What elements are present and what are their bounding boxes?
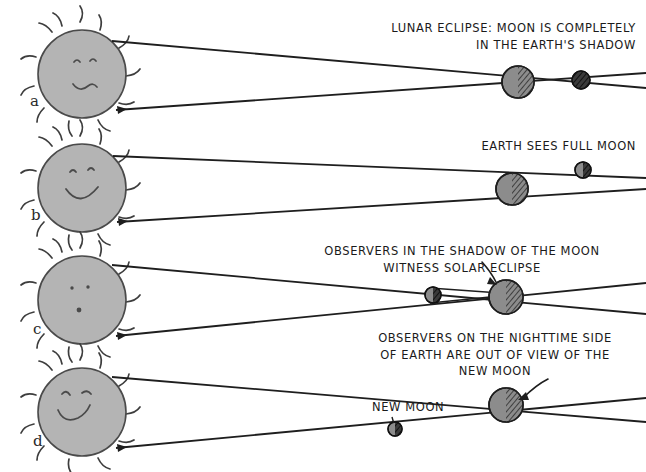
caption-panel-a: LUNAR ECLIPSE: MOON IS COMPLETELY IN THE… [300,20,636,53]
sun-body-d [38,368,126,456]
eclipse-diagram: LUNAR ECLIPSE: MOON IS COMPLETELY IN THE… [0,0,646,472]
panel-letter-d: d [33,432,43,450]
earth-d [489,386,528,426]
new-moon-arrow-d [518,379,548,400]
caption-panel-c: OBSERVERS IN THE SHADOW OF THE MOON WITN… [286,243,638,276]
new-moon-label: NEW MOON [372,400,444,414]
panel-letter-c: c [33,320,41,338]
sun-body-b [38,144,126,232]
earth-a [502,64,538,102]
sun-body-c [38,256,126,344]
light-cone-b [113,156,646,222]
moon-b [575,160,603,182]
caption-panel-b: EARTH SEES FULL MOON [300,138,636,154]
diagram-canvas [0,0,646,472]
cone-arrowheads-c [117,332,127,340]
moon-a [570,69,594,93]
earth-b [496,171,532,209]
sun-body-a [38,30,126,118]
moon-d [388,420,413,440]
panel-letter-b: b [31,206,41,224]
caption-panel-d: OBSERVERS ON THE NIGHTTIME SIDE OF EARTH… [352,330,638,379]
panel-letter-a: a [30,92,39,110]
